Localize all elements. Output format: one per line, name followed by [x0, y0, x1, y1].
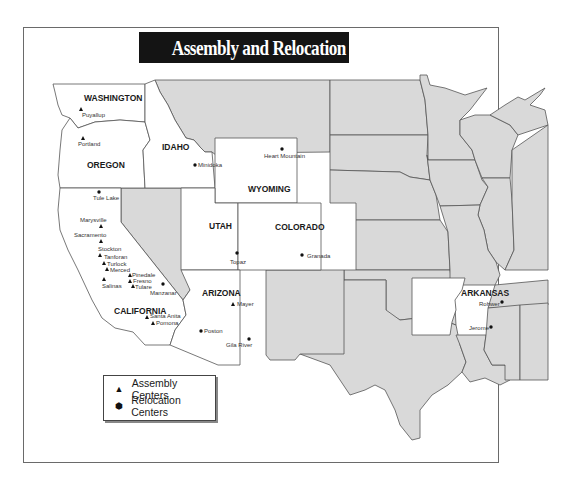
label-wyoming: WYOMING — [248, 184, 291, 194]
site-tule-lake: Tule Lake — [93, 195, 120, 201]
legend-label-relocation: Relocation Centers — [131, 394, 215, 418]
state-colorado — [238, 203, 321, 270]
label-washington: WASHINGTON — [84, 93, 142, 103]
dot-icon — [161, 282, 164, 285]
dot-icon — [300, 253, 303, 256]
state-arkansas — [412, 278, 465, 335]
site-salinas: Salinas — [102, 283, 122, 289]
dot-icon — [199, 329, 202, 332]
site-merced: Merced — [110, 267, 130, 273]
site-manzanar: Manzanar — [150, 290, 177, 296]
dot-icon — [193, 163, 196, 166]
site-marysville: Marysville — [80, 217, 107, 223]
site-jerome: Jerome — [469, 325, 490, 331]
legend-item-relocation: ⬢ Relocation Centers — [112, 397, 215, 414]
state-new-mexico — [266, 270, 344, 360]
site-minidoka: Minidoka — [198, 162, 223, 168]
label-arkansas: ARKANSAS — [461, 288, 510, 298]
legend: ▲ Assembly Centers ⬢ Relocation Centers — [103, 375, 216, 421]
label-colorado: COLORADO — [275, 222, 325, 232]
site-portland: Portland — [78, 141, 100, 147]
map-title: Assembly and Relocation Centers — [139, 32, 349, 63]
label-utah: UTAH — [209, 221, 232, 231]
site-heart-mountain: Heart Mountain — [264, 153, 305, 159]
site-poston: Poston — [204, 328, 223, 334]
label-idaho: IDAHO — [162, 142, 190, 152]
hexagon-dot-icon: ⬢ — [112, 401, 125, 411]
state-oregon — [58, 118, 150, 188]
site-pomona: Pomona — [156, 320, 179, 326]
site-topaz: Topaz — [230, 259, 246, 265]
state-north-dakota — [330, 80, 428, 135]
dot-icon — [489, 325, 492, 328]
dot-icon — [247, 337, 250, 340]
site-stockton: Stockton — [98, 246, 121, 252]
site-rohwer: Rohwer — [479, 301, 500, 307]
state-alabama — [520, 303, 548, 380]
triangle-icon: ▲ — [112, 384, 126, 394]
site-santa-anita: Santa Anita — [150, 313, 181, 319]
dot-icon — [97, 190, 100, 193]
site-puyallup: Puyallup — [82, 112, 106, 118]
label-arizona: ARIZONA — [202, 288, 241, 298]
dot-icon — [235, 251, 238, 254]
site-sacramento: Sacramento — [74, 232, 107, 238]
site-gila-river: Gila River — [226, 342, 252, 348]
dot-icon — [280, 147, 283, 150]
map-title-text: Assembly and Relocation Centers — [172, 32, 404, 63]
site-mayer: Mayer — [237, 301, 254, 307]
site-granada: Granada — [307, 253, 331, 259]
site-tanforan: Tanforan — [104, 254, 127, 260]
dot-icon — [500, 300, 503, 303]
us-west-map: WASHINGTON OREGON IDAHO WYOMING UTAH COL… — [0, 0, 578, 486]
label-oregon: OREGON — [87, 160, 125, 170]
state-kansas — [356, 220, 450, 270]
